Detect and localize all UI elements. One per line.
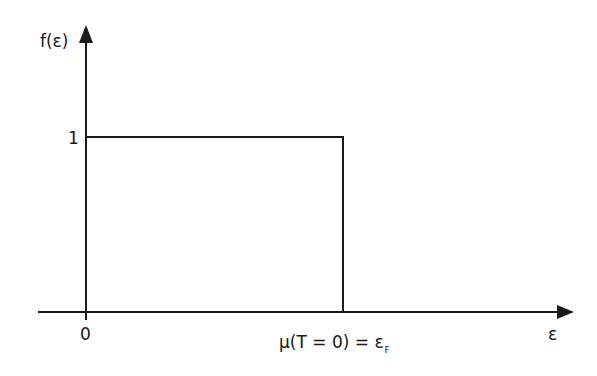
- y-axis-label: f(ε): [40, 33, 68, 50]
- x-axis-arrowhead: [557, 305, 574, 319]
- y-axis-arrowhead: [79, 25, 93, 43]
- x-tick-label-mu: μ(T = 0) = εF: [279, 334, 390, 355]
- x-axis-label: ε: [548, 326, 557, 343]
- x-tick-label-zero: 0: [80, 326, 91, 343]
- mu-label-main: μ(T = 0) = ε: [279, 332, 384, 352]
- fermi-dirac-diagram: [0, 0, 597, 376]
- step-function-line: [86, 137, 343, 312]
- y-tick-label-one: 1: [68, 130, 79, 147]
- mu-label-subscript: F: [385, 345, 390, 355]
